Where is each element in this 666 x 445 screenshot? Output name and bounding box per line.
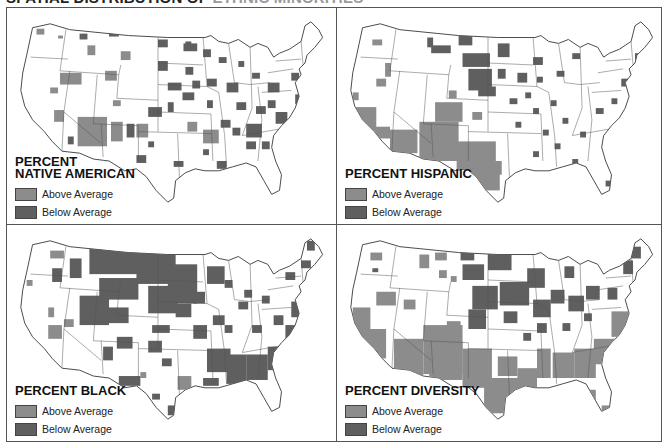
county-region xyxy=(602,405,610,413)
county-region xyxy=(472,286,497,310)
county-region xyxy=(285,325,301,345)
county-region xyxy=(498,43,510,57)
county-region xyxy=(225,280,233,288)
county-region xyxy=(58,36,63,39)
county-region xyxy=(148,141,154,147)
county-region xyxy=(246,354,268,379)
county-region xyxy=(533,108,539,114)
county-region xyxy=(232,128,240,136)
county-region xyxy=(80,296,109,325)
county-region xyxy=(611,311,629,336)
county-region xyxy=(419,122,458,161)
county-region xyxy=(203,378,219,386)
county-region xyxy=(78,117,107,146)
county-region xyxy=(183,92,195,100)
county-region xyxy=(207,266,225,284)
legend-label-above: Above Average xyxy=(42,405,113,417)
legend-label-below: Below Average xyxy=(372,206,442,218)
county-region xyxy=(372,39,382,45)
county-region xyxy=(394,339,423,378)
county-region xyxy=(488,161,502,175)
county-region xyxy=(238,61,244,67)
legend-label-above: Above Average xyxy=(42,188,113,200)
county-region xyxy=(463,264,485,280)
county-region xyxy=(192,81,200,89)
county-region xyxy=(48,325,62,339)
county-region xyxy=(307,241,315,251)
county-region xyxy=(80,34,88,40)
county-region xyxy=(227,83,239,93)
county-region xyxy=(562,323,570,331)
swatch-below xyxy=(345,423,367,436)
map-panel-diversity: PERCENT DIVERSITY Above Average Below Av… xyxy=(337,225,666,442)
county-region xyxy=(203,149,209,155)
county-region xyxy=(113,100,121,106)
county-region xyxy=(176,304,192,318)
county-region xyxy=(510,98,518,104)
map-panel-black: PERCENT BLACK Above Average Below Averag… xyxy=(7,225,337,442)
county-region xyxy=(103,347,113,361)
county-region xyxy=(70,258,82,278)
county-region xyxy=(586,286,600,300)
county-region xyxy=(439,270,447,278)
county-region xyxy=(431,45,451,53)
county-region xyxy=(183,43,197,51)
county-region xyxy=(504,311,518,323)
county-region xyxy=(213,315,225,325)
county-region xyxy=(551,290,565,304)
county-region xyxy=(515,122,521,128)
county-region xyxy=(374,127,390,139)
county-region xyxy=(158,61,168,71)
county-region xyxy=(221,120,231,128)
legend-label-below: Below Average xyxy=(42,206,112,218)
county-region xyxy=(596,108,604,114)
county-region xyxy=(219,57,227,63)
county-region xyxy=(105,71,117,81)
county-region xyxy=(527,268,545,288)
county-region xyxy=(262,141,270,149)
legend-diversity: PERCENT DIVERSITY Above Average Below Av… xyxy=(345,385,479,438)
county-region xyxy=(468,309,486,329)
figure-title: SPATIAL DISTRIBUTION OF ETHNIC MINORITIE… xyxy=(6,0,363,5)
county-region xyxy=(500,282,529,306)
legend-item-above: Above Average xyxy=(345,402,479,420)
county-region xyxy=(291,302,301,318)
county-region xyxy=(608,288,618,300)
county-region xyxy=(54,110,64,122)
legend-black: PERCENT BLACK Above Average Below Averag… xyxy=(15,385,126,438)
county-region xyxy=(207,79,217,87)
legend-item-above: Above Average xyxy=(345,185,472,203)
county-region xyxy=(236,102,246,110)
county-region xyxy=(136,155,146,163)
county-region xyxy=(121,51,131,60)
county-region xyxy=(370,253,382,261)
county-region xyxy=(148,341,162,353)
title-main: SPATIAL DISTRIBUTION OF xyxy=(6,0,212,6)
county-region xyxy=(580,132,586,138)
legend-title: PERCENT BLACK xyxy=(15,385,126,397)
county-region xyxy=(435,253,447,261)
legend-label-below: Below Average xyxy=(42,423,112,435)
legend-item-below: Below Average xyxy=(345,203,472,221)
legend-item-above: Above Average xyxy=(15,185,135,203)
county-region xyxy=(459,36,473,46)
county-region xyxy=(551,100,557,106)
county-region xyxy=(498,356,518,376)
county-region xyxy=(268,83,280,93)
county-region xyxy=(185,67,193,75)
map-panel-native-american: PERCENT NATIVE AMERICAN Above Average Be… xyxy=(7,8,337,225)
county-region xyxy=(562,118,568,124)
county-region xyxy=(180,183,190,191)
county-region xyxy=(238,302,248,310)
county-region xyxy=(158,39,168,47)
title-highlight: ETHNIC MINORITIES xyxy=(212,0,363,6)
county-region xyxy=(523,333,531,341)
county-region xyxy=(404,300,416,310)
county-region xyxy=(488,253,512,271)
swatch-above xyxy=(345,188,367,201)
legend-item-below: Below Average xyxy=(15,203,135,221)
county-region xyxy=(305,81,315,89)
legend-item-below: Below Average xyxy=(15,420,126,438)
county-region xyxy=(87,45,95,55)
county-region xyxy=(48,307,54,317)
